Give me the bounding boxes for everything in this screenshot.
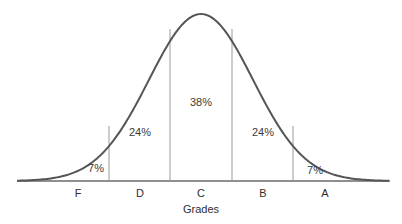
x-axis-title: Grades	[183, 203, 220, 215]
label-a-percent: 7%	[307, 164, 323, 176]
grade-f: F	[75, 187, 82, 199]
bell-curve-chart: 7% 24% 38% 24% 7% F D C B A Grades	[0, 0, 402, 224]
grade-c: C	[197, 187, 205, 199]
grade-a: A	[321, 187, 329, 199]
grade-b: B	[259, 187, 266, 199]
grade-d: D	[136, 187, 144, 199]
label-f-percent: 7%	[88, 162, 104, 174]
label-c-percent: 38%	[190, 96, 212, 108]
label-b-percent: 24%	[252, 126, 274, 138]
label-d-percent: 24%	[129, 126, 151, 138]
